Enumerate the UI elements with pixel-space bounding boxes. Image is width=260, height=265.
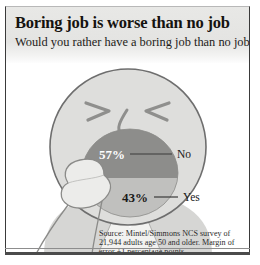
pie-chart-illustration [6, 7, 249, 254]
data-label-yes-percent: 43% [122, 190, 148, 206]
data-label-yes-text: Yes [183, 191, 200, 203]
data-label-no-text: No [177, 148, 191, 160]
bottom-rule-thick [5, 252, 250, 255]
data-label-no-percent: 57% [99, 147, 125, 163]
bottom-rule-thin [5, 248, 250, 249]
infographic-panel: Boring job is worse than no job Would yo… [5, 6, 250, 255]
